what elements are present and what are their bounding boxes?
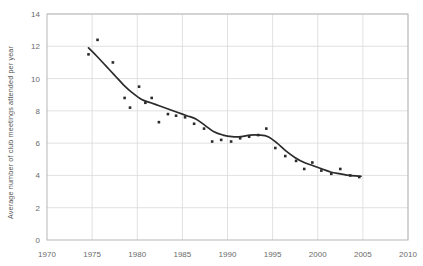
data-points	[87, 39, 360, 179]
chart-figure: Average number of club meetings attended…	[0, 0, 423, 266]
svg-text:4: 4	[36, 171, 41, 180]
scatter-plot: 197019751980198519901995200020052010 024…	[0, 0, 423, 266]
grid-lines	[47, 14, 408, 240]
svg-text:1980: 1980	[128, 250, 146, 259]
svg-text:2005: 2005	[354, 250, 372, 259]
svg-text:14: 14	[31, 10, 40, 19]
svg-text:10: 10	[31, 75, 40, 84]
x-axis-tick-labels: 197019751980198519901995200020052010	[38, 250, 417, 259]
svg-text:0: 0	[36, 236, 41, 245]
svg-text:12: 12	[31, 42, 40, 51]
svg-text:1975: 1975	[83, 250, 101, 259]
svg-text:1990: 1990	[219, 250, 237, 259]
svg-text:1970: 1970	[38, 250, 56, 259]
svg-text:8: 8	[36, 107, 41, 116]
svg-text:2000: 2000	[309, 250, 327, 259]
y-axis-tick-labels: 02468101214	[31, 10, 40, 245]
svg-text:6: 6	[36, 139, 41, 148]
svg-text:1995: 1995	[264, 250, 282, 259]
svg-text:1985: 1985	[173, 250, 191, 259]
trend-line	[89, 48, 362, 176]
svg-text:2: 2	[36, 204, 41, 213]
svg-text:2010: 2010	[399, 250, 417, 259]
